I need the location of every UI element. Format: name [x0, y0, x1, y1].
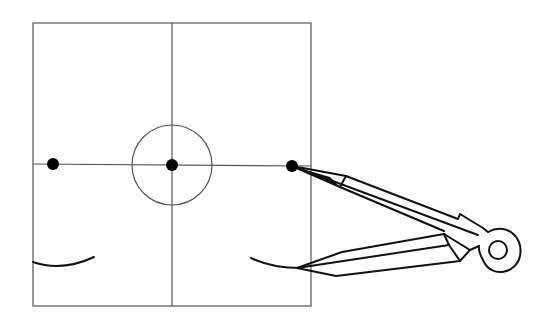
marked-points: [47, 158, 298, 172]
lower-leg-knuckle-link: [470, 246, 479, 250]
left-point: [47, 158, 59, 170]
right-arc: [251, 258, 300, 268]
upper-leg-lower-edge: [292, 166, 444, 231]
upper-leg-inner-line: [292, 166, 478, 235]
lower-leg-knuckle: [444, 234, 470, 261]
arc-marks: [33, 257, 300, 268]
compass-icon: [292, 166, 521, 276]
left-arc: [33, 257, 94, 266]
diagram-canvas: [0, 0, 559, 326]
lower-leg-lower-edge: [297, 261, 460, 276]
compass-construction-diagram: [0, 0, 559, 326]
hinge-outer: [479, 229, 521, 272]
right-point: [286, 160, 298, 172]
center-point: [166, 159, 178, 171]
hinge-hole: [489, 241, 507, 259]
lower-leg-outline: [297, 234, 444, 268]
